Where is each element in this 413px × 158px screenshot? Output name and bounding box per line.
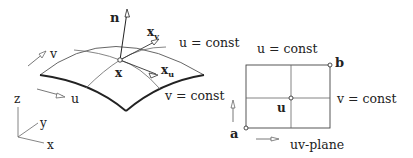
- tangent-u-vector: [120, 60, 158, 78]
- normal-label: n: [110, 10, 120, 25]
- x-axis-label: x: [47, 138, 54, 152]
- surface-point: [118, 58, 122, 62]
- corner-b-point: [328, 63, 332, 67]
- point-x-label: x: [115, 66, 123, 80]
- y-axis-label: y: [39, 116, 47, 130]
- uv-point: [289, 96, 293, 100]
- corner-b-label: b: [335, 55, 344, 70]
- normal-vector: [120, 9, 130, 60]
- tangent-v-label: xv: [147, 25, 159, 41]
- uv-v-direction-arrow: [231, 100, 235, 122]
- u-direction-arrow: [37, 89, 65, 98]
- corner-a-label: a: [230, 126, 239, 141]
- surface-v-const-label: v = const: [164, 88, 225, 103]
- uv-rectangle: [246, 65, 330, 128]
- uv-point-label: u: [277, 101, 286, 115]
- uv-plane-label: uv-plane: [290, 137, 344, 152]
- tangent-u-label: xu: [161, 63, 174, 79]
- tangent-v-vector: [120, 39, 159, 60]
- v-direction-arrow: [28, 51, 46, 66]
- u-direction-label: u: [71, 91, 79, 106]
- surface-u-const-label: u = const: [179, 35, 240, 50]
- uv-u-const-label: u = const: [257, 41, 318, 56]
- v-direction-label: v: [49, 46, 58, 61]
- uv-u-direction-arrow: [256, 137, 279, 141]
- uv-v-const-label: v = const: [336, 91, 397, 106]
- surface-parametrization-diagram: n xv xu x u = const v = const v u z y x: [0, 0, 413, 158]
- z-axis-label: z: [14, 92, 20, 106]
- corner-a-point: [244, 126, 248, 130]
